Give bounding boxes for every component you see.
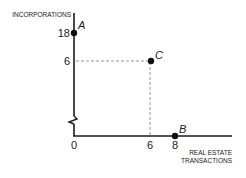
x-axis-title-line2: TRANSACTIONS [181,157,233,164]
point-a-label: A [77,19,85,31]
origin-label: 0 [71,139,77,151]
x-tick-6: 6 [147,139,153,151]
point-a [71,30,77,36]
y-axis-title: INCORPORATIONS [12,11,71,18]
x-tick-8: 8 [172,139,178,151]
y-tick-18: 18 [58,27,70,39]
production-possibilities-diagram: A C B 18 6 0 6 8 INCORPORATIONS REAL EST… [0,0,246,178]
x-axis-title-line1: REAL ESTATE [189,149,233,156]
point-c [148,58,154,64]
y-tick-6: 6 [64,55,70,67]
point-c-label: C [155,49,163,61]
point-b-label: B [179,123,186,135]
axis-break-icon [69,116,77,124]
